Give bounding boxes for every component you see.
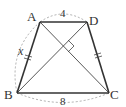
diagonal-BD xyxy=(17,22,87,93)
trapezoid-diagram: A D B C 4 8 x xyxy=(0,0,126,107)
vertex-label-A: A xyxy=(27,9,37,24)
right-angle-mark xyxy=(68,40,74,52)
side-label-BC: 8 xyxy=(60,95,66,107)
vertex-label-B: B xyxy=(4,87,13,102)
vertex-label-C: C xyxy=(110,87,119,102)
side-label-AB: x xyxy=(17,44,24,58)
side-label-AD: 4 xyxy=(60,7,66,19)
vertex-label-D: D xyxy=(89,13,98,28)
